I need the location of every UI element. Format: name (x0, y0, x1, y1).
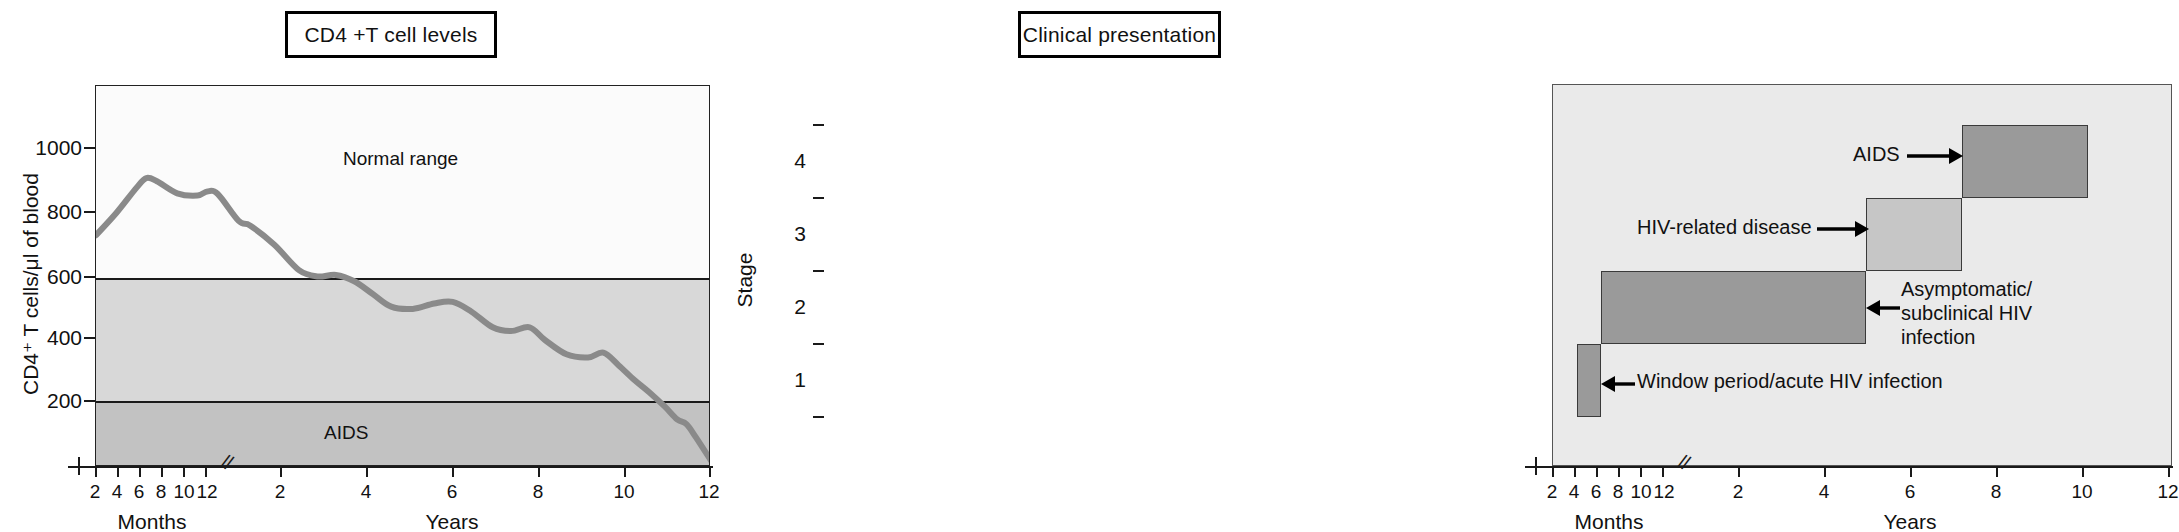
clinical-xtick-mark-month-10 (1640, 466, 1642, 477)
cd4-ytick-label-800: 800 (22, 200, 82, 224)
clinical-xtick-mark-year-6 (1910, 466, 1912, 477)
cd4-xtick-label-month-10: 10 (173, 481, 194, 503)
annotation-asymptomatic-line3: infection (1901, 325, 2101, 349)
cd4-xtick-label-month-8: 8 (156, 481, 167, 503)
clinical-ytick-label-1: 1 (746, 368, 806, 392)
clinical-xtick-mark-month-6 (1596, 466, 1598, 477)
cd4-ytick-mark-400 (84, 337, 95, 339)
cd4-x-axis-years-label: Years (426, 510, 479, 532)
stage-bar-aids (1962, 125, 2088, 198)
clinical-xtick-label-year-10: 10 (2071, 481, 2092, 503)
clinical-xtick-mark-year-10 (2082, 466, 2084, 477)
clinical-xtick-mark-month-8 (1618, 466, 1620, 477)
cd4-x-axis-months-label: Months (118, 510, 187, 532)
clinical-title-text: Clinical presentation (1023, 23, 1216, 47)
clinical-ytick-label-4: 4 (746, 149, 806, 173)
clinical-xtick-mark-origin (1535, 457, 1537, 475)
cd4-xtick-mark-year-10 (624, 466, 626, 477)
stage-bar-asymptomatic (1601, 271, 1866, 344)
clinical-ytick-mark-2p5 (813, 270, 824, 272)
clinical-xtick-label-year-2: 2 (1733, 481, 1744, 503)
cd4-xtick-mark-origin (78, 457, 80, 475)
annotation-hiv-related-disease-text: HIV-related disease (1637, 215, 1812, 239)
cd4-xtick-label-year-2: 2 (275, 481, 286, 503)
cd4-xtick-label-year-6: 6 (447, 481, 458, 503)
stage-bar-hiv-related-disease (1866, 198, 1962, 271)
arrow-window-period-icon (1601, 373, 1637, 395)
clinical-xtick-label-year-6: 6 (1905, 481, 1916, 503)
clinical-xtick-mark-month-4 (1574, 466, 1576, 477)
cd4-xtick-mark-year-8 (538, 466, 540, 477)
clinical-ytick-mark-0p5 (813, 416, 824, 418)
cd4-plot-area: Normal range AIDS (95, 85, 710, 466)
cd4-xtick-label-year-10: 10 (613, 481, 634, 503)
clinical-xtick-label-month-4: 4 (1569, 481, 1580, 503)
clinical-panel: Clinical presentation Stage 4 3 2 1 AIDS… (728, 0, 1456, 532)
cd4-xtick-mark-year-12 (709, 466, 711, 477)
cd4-ytick-mark-1000 (84, 147, 95, 149)
clinical-xtick-mark-year-2 (1738, 466, 1740, 477)
cd4-panel: CD4 +T cell levels CD4⁺ T cells/μl of bl… (0, 0, 728, 532)
clinical-xtick-label-month-2: 2 (1547, 481, 1558, 503)
cd4-count-curve (96, 86, 710, 466)
clinical-plot-area: AIDS HIV-related disease Asymptomatic/ s… (1552, 84, 2172, 466)
cd4-xtick-mark-month-12 (205, 466, 207, 477)
clinical-xtick-label-month-12: 12 (1653, 481, 1674, 503)
cd4-xtick-mark-year-2 (280, 466, 282, 477)
cd4-xtick-label-year-8: 8 (533, 481, 544, 503)
clinical-xtick-label-year-4: 4 (1819, 481, 1830, 503)
cd4-x-axis-line (68, 466, 713, 468)
clinical-xtick-label-year-12: 12 (2157, 481, 2178, 503)
arrow-aids-icon (1905, 145, 1963, 167)
clinical-xtick-label-month-10: 10 (1630, 481, 1651, 503)
clinical-ytick-label-2: 2 (746, 295, 806, 319)
cd4-ytick-mark-600 (84, 276, 95, 278)
cd4-ytick-label-600: 600 (22, 265, 82, 289)
clinical-x-axis-years-label: Years (1884, 510, 1937, 532)
cd4-xtick-mark-year-4 (366, 466, 368, 477)
clinical-xtick-mark-month-12 (1662, 466, 1664, 477)
clinical-ytick-mark-4p5 (813, 124, 824, 126)
arrow-asymptomatic-icon (1866, 297, 1902, 319)
cd4-title-text: CD4 +T cell levels (304, 23, 477, 47)
cd4-ytick-label-1000: 1000 (22, 136, 82, 160)
cd4-xtick-mark-month-2 (95, 466, 97, 477)
cd4-xtick-label-month-2: 2 (90, 481, 101, 503)
clinical-ytick-mark-1p5 (813, 343, 824, 345)
cd4-xtick-mark-month-6 (139, 466, 141, 477)
cd4-xtick-label-month-6: 6 (134, 481, 145, 503)
cd4-xtick-mark-month-10 (183, 466, 185, 477)
cd4-xtick-mark-month-4 (117, 466, 119, 477)
cd4-ytick-label-200: 200 (22, 389, 82, 413)
cd4-xtick-label-month-12: 12 (196, 481, 217, 503)
clinical-xtick-label-year-8: 8 (1991, 481, 2002, 503)
annotation-asymptomatic-line2: subclinical HIV (1901, 301, 2101, 325)
arrow-hiv-related-disease-icon (1815, 218, 1869, 240)
annotation-aids-text: AIDS (1853, 142, 1900, 166)
cd4-ytick-mark-200 (84, 400, 95, 402)
cd4-xtick-mark-year-6 (452, 466, 454, 477)
clinical-ytick-label-3: 3 (746, 222, 806, 246)
clinical-xtick-label-month-8: 8 (1613, 481, 1624, 503)
cd4-ytick-label-400: 400 (22, 326, 82, 350)
clinical-title-box: Clinical presentation (1018, 11, 1221, 58)
cd4-ytick-mark-800 (84, 211, 95, 213)
clinical-ytick-mark-3p5 (813, 197, 824, 199)
stage-bar-window-period (1577, 344, 1601, 417)
cd4-xtick-label-year-4: 4 (361, 481, 372, 503)
annotation-asymptomatic-block: Asymptomatic/ subclinical HIV infection (1901, 277, 2101, 349)
clinical-xtick-label-month-6: 6 (1591, 481, 1602, 503)
annotation-window-period-text: Window period/acute HIV infection (1637, 369, 1943, 393)
cd4-xtick-label-month-4: 4 (112, 481, 123, 503)
cd4-title-box: CD4 +T cell levels (285, 11, 497, 58)
clinical-xtick-mark-year-8 (1996, 466, 1998, 477)
annotation-asymptomatic-line1: Asymptomatic/ (1901, 277, 2101, 301)
clinical-x-axis-months-label: Months (1575, 510, 1644, 532)
clinical-xtick-mark-year-4 (1824, 466, 1826, 477)
cd4-xtick-mark-month-8 (161, 466, 163, 477)
clinical-x-axis-line (1525, 466, 2173, 468)
clinical-xtick-mark-year-12 (2168, 466, 2170, 477)
cd4-xtick-label-year-12: 12 (698, 481, 719, 503)
clinical-xtick-mark-month-2 (1552, 466, 1554, 477)
